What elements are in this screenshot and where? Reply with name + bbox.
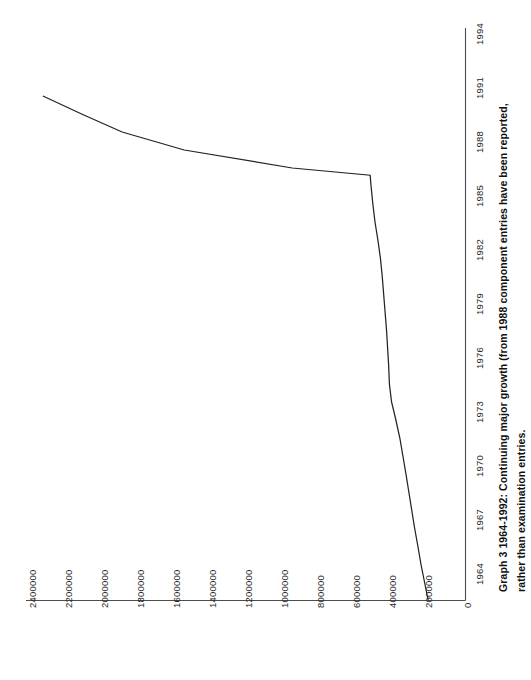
value-tick-2000000: 2000000 — [99, 570, 110, 608]
value-tick-2400000: 2400000 — [27, 570, 38, 608]
value-tick-800000: 800000 — [315, 575, 326, 608]
category-tick-1988: 1988 — [474, 131, 485, 153]
value-tick-2200000: 2200000 — [63, 570, 74, 608]
chart-caption-line-1: Graph 3 1964-1992: Continuing major grow… — [497, 103, 509, 592]
data-series-line — [43, 96, 428, 600]
value-tick-1800000: 1800000 — [135, 570, 146, 608]
value-tick-400000: 400000 — [387, 575, 398, 608]
category-tick-1967: 1967 — [474, 509, 485, 531]
chart-caption-line-2: rather than examination entries. — [515, 430, 527, 593]
category-tick-1991: 1991 — [474, 77, 485, 99]
chart-svg — [0, 0, 531, 680]
category-tick-1982: 1982 — [474, 239, 485, 261]
chart-page: 2400000 2200000 2000000 1800000 1600000 … — [0, 0, 531, 680]
value-tick-1200000: 1200000 — [243, 570, 254, 608]
value-tick-200000: 200000 — [423, 575, 434, 608]
category-tick-1979: 1979 — [474, 293, 485, 315]
value-tick-1000000: 1000000 — [279, 570, 290, 608]
category-tick-1976: 1976 — [474, 347, 485, 369]
category-tick-1973: 1973 — [474, 401, 485, 423]
category-tick-1964: 1964 — [474, 563, 485, 585]
value-tick-1600000: 1600000 — [171, 570, 182, 608]
category-tick-1994: 1994 — [474, 23, 485, 45]
value-tick-600000: 600000 — [351, 575, 362, 608]
value-tick-1400000: 1400000 — [207, 570, 218, 608]
category-tick-1970: 1970 — [474, 455, 485, 477]
value-tick-0: 0 — [462, 603, 473, 608]
plot-area — [0, 0, 531, 680]
category-tick-1985: 1985 — [474, 185, 485, 207]
